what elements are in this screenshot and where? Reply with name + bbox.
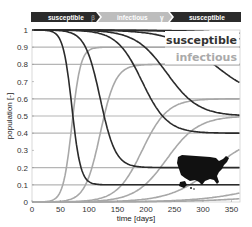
x-tick-label: 300: [196, 205, 210, 214]
y-tick-label: 0.7: [17, 78, 29, 87]
y-tick-label: 0: [24, 198, 29, 207]
y-tick-label: 0.8: [17, 60, 29, 69]
y-tick-label: 0.5: [17, 112, 29, 121]
sis-chart: susceptible β infectious γ susceptible s…: [0, 0, 252, 227]
y-axis-label: population [-]: [5, 93, 14, 139]
x-tick-label: 200: [139, 205, 153, 214]
x-tick-label: 350: [225, 205, 239, 214]
x-tick-label: 150: [111, 205, 125, 214]
y-tick-label: 1: [24, 26, 29, 35]
x-tick-label: 100: [82, 205, 96, 214]
stage-banner: susceptible β infectious γ susceptible: [31, 12, 241, 22]
y-tick-label: 0.2: [17, 164, 29, 173]
y-tick-label: 0.1: [17, 181, 29, 190]
x-tick-label: 50: [56, 205, 65, 214]
x-tick-label: 250: [168, 205, 182, 214]
y-tick-label: 0.4: [17, 129, 29, 138]
gamma-label: γ: [160, 14, 164, 22]
banner-label-infectious: infectious: [117, 14, 148, 21]
y-tick-label: 0.6: [17, 95, 29, 104]
y-axis: 00.10.20.30.40.50.60.70.80.91: [17, 26, 34, 207]
x-axis-label: time [days]: [117, 214, 156, 223]
legend-susceptible: susceptible: [166, 34, 237, 47]
y-tick-label: 0.9: [17, 43, 29, 52]
y-tick-label: 0.3: [17, 146, 29, 155]
x-tick-label: 0: [30, 205, 35, 214]
beta-label: β: [91, 14, 95, 22]
banner-label-susceptible-2: susceptible: [189, 14, 225, 22]
legend-infectious: infectious: [176, 51, 238, 64]
banner-label-susceptible: susceptible: [48, 14, 84, 22]
